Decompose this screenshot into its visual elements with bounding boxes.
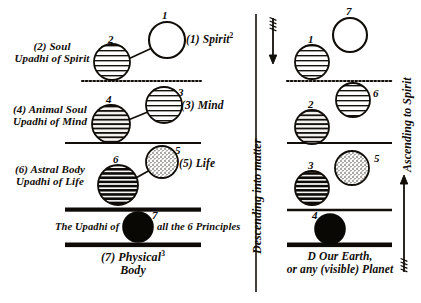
- right-panel-caption: D Our Earth, or any (visible) Planet: [276, 250, 404, 276]
- label-soul: (2) Soul Upadhi of Spirit: [10, 40, 94, 65]
- label-life: (5) Life: [179, 157, 215, 170]
- circle-right-6: [336, 83, 370, 117]
- circle-left-6-astral-body: [98, 165, 138, 205]
- circle-right-1: [295, 45, 329, 79]
- circle-right-5: [335, 151, 369, 185]
- label-physical-body-line1: (7) Physical3: [63, 250, 203, 264]
- right-panel-caption-line1: D Our Earth,: [276, 250, 404, 263]
- circle-number-left-1: 1: [162, 9, 168, 21]
- circle-number-left-5: 5: [175, 144, 181, 156]
- circle-number-left-3: 3: [178, 86, 184, 98]
- circle-right-3: [295, 171, 329, 205]
- label-animal-soul-line1: (4) Animal Soul: [6, 103, 94, 115]
- label-animal-soul-line2: Upadhi of Mind: [6, 115, 94, 127]
- circle-number-right-5: 5: [374, 152, 380, 164]
- circle-number-left-7: 7: [152, 209, 158, 221]
- circle-left-2-soul: [94, 44, 130, 80]
- circle-number-left-6: 6: [113, 153, 119, 165]
- circle-number-right-3: 3: [308, 159, 314, 171]
- label-animal-soul: (4) Animal Soul Upadhi of Mind: [6, 103, 94, 128]
- circle-right-2: [295, 110, 329, 144]
- circle-number-right-4: 4: [312, 209, 318, 221]
- label-astral-body: (6) Astral Body Upadhi of Life: [4, 163, 96, 188]
- label-physical-body: (7) Physical3 Body: [63, 250, 203, 278]
- divider-thick-left-2: [65, 243, 201, 248]
- upadhi-caption-pre: The Upadhi of: [55, 221, 119, 233]
- label-astral-body-line1: (6) Astral Body: [4, 163, 96, 175]
- circle-number-left-2: 2: [108, 33, 114, 45]
- circle-left-4-animal-soul: [92, 105, 130, 143]
- circle-number-right-2: 2: [308, 98, 314, 110]
- divider-thick-right: [287, 243, 392, 248]
- circle-right-7: [333, 18, 367, 52]
- label-astral-body-line2: Upadhi of Life: [4, 175, 96, 187]
- ascending-axis-label: Ascending to Spirit: [400, 77, 415, 172]
- descending-arrow-icon: [269, 18, 276, 65]
- circle-right-4: [315, 214, 345, 244]
- label-spirit-text: (1) Spirit: [186, 33, 230, 45]
- label-physical-body-superscript: 3: [161, 249, 165, 258]
- circle-left-7-physical-body: [123, 212, 153, 242]
- circle-number-right-1: 1: [308, 33, 314, 45]
- circle-left-5-life: [146, 146, 178, 178]
- upadhi-caption-post: all the 6 Principles: [157, 221, 240, 233]
- label-physical-body-line2: Body: [63, 264, 203, 277]
- circle-number-right-6: 6: [373, 87, 379, 99]
- circle-left-3-mind: [146, 87, 182, 123]
- right-panel-caption-line2: or any (visible) Planet: [276, 263, 404, 276]
- circle-number-left-4: 4: [106, 93, 112, 105]
- circle-number-right-7: 7: [346, 5, 352, 17]
- label-soul-line2: Upadhi of Spirit: [10, 52, 94, 64]
- circle-left-1-spirit: [149, 22, 185, 58]
- label-soul-line1: (2) Soul: [10, 40, 94, 52]
- divider-thick-left-1: [65, 208, 201, 212]
- label-mind: (3) Mind: [181, 99, 224, 112]
- descending-axis-label: Descending into matter: [250, 139, 265, 254]
- label-spirit: (1) Spirit2: [186, 32, 233, 46]
- label-spirit-superscript: 2: [230, 31, 234, 40]
